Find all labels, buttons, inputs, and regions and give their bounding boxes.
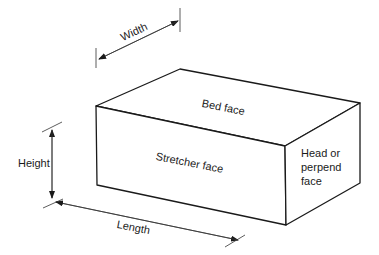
head-face-label-line1: Head or: [301, 146, 341, 160]
head-face-label-line2: perpend: [301, 160, 341, 174]
width-dimension: [96, 8, 180, 68]
head-face-label-line3: face: [301, 174, 341, 188]
head-face-label: Head or perpend face: [301, 146, 341, 188]
height-label: Height: [18, 158, 50, 169]
brick-diagram: [0, 0, 379, 255]
